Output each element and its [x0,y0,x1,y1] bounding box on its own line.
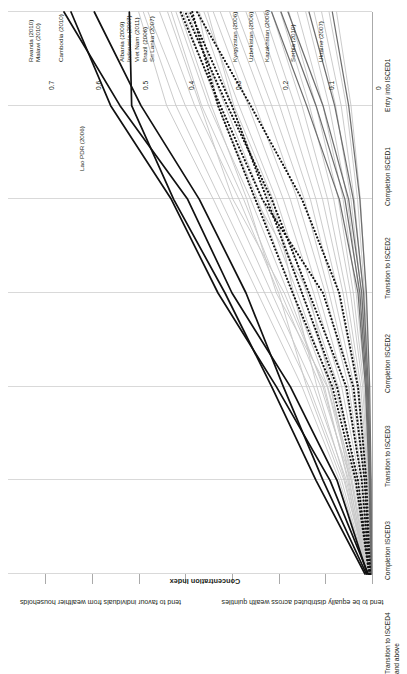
stage-label-4: Transition to ISCED3 [384,425,392,487]
y-tick-label-0: 0 [375,86,382,90]
country-label-viet-nam-2011: Viet Nam (2011) [133,18,140,62]
stage-label-3: Completion ISCED2 [384,334,392,393]
y-tick-label-1: 0.1 [328,81,335,90]
series-line-background [264,12,371,574]
y-tick-label-7: 0.7 [48,81,55,90]
y-tick-label-4: 0.4 [188,81,195,90]
country-label-uzbekistan-2006: Uzbekistan (2006) [247,12,254,62]
y-tick-label-2: 0.2 [282,81,289,90]
country-label-sri-lanka-2007: Sri Lanka (2007) [148,16,155,62]
series-line-background [230,12,370,574]
series-line-background [168,12,366,574]
country-label-lao-pdr: Lao PDR (2006) [78,125,85,172]
stage-label-5: Completion ISCED3 [384,521,392,580]
country-label-serbia-2010: Serbia (2010) [289,25,296,63]
country-label-ukraine-2007: Ukraine (2007) [317,21,324,62]
stage-label-1: Completion ISCED1 [384,147,392,206]
stage-label-0: Entry into ISCED1 [384,58,392,112]
y-tick-label-5: 0.5 [142,81,149,90]
stage-label-6-line2: and above [393,643,401,674]
series-line-3 [129,12,365,574]
country-label-kazakhstan-2006: Kazakhstan (2006) [263,10,270,62]
y-tick-label-6: 0.6 [95,81,102,90]
country-label-kyrgyzstan-2006: Kyrgyzstan (2006) [231,12,238,62]
series-line-background [160,12,368,574]
stage-label-2: Transition to ISCED2 [384,238,392,300]
y-tick-label-3: 0.3 [235,81,242,90]
country-label-cambodia-2010: Cambodia (2010) [57,14,64,62]
annotation-wealthier: tend to favour individuals from wealthie… [18,598,183,607]
country-label-indonesia-2007: Indonesia (2007) [125,16,132,62]
stage-label-6: Transition to ISCED4 [384,612,392,674]
country-label-malawi-2010: Malawi (2010) [34,23,41,62]
y-axis-title: Concentration Index [150,577,260,586]
annotation-equal: tend to be equally distributed across we… [215,598,390,607]
